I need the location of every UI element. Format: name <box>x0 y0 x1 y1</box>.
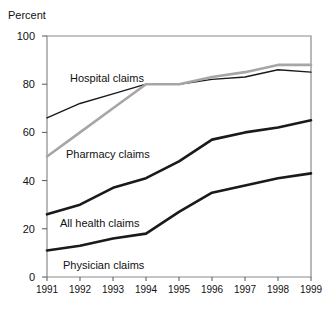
series-label-physician-claims: Physician claims <box>63 259 144 271</box>
series-label-pharmacy-claims: Pharmacy claims <box>66 148 150 160</box>
series-label-all-health-claims: All health claims <box>60 217 139 229</box>
percent-claims-line-chart: Percent 020406080100 1991199219931994199… <box>0 0 332 309</box>
series-line-physician-claims <box>47 173 311 250</box>
plot-area <box>0 0 332 309</box>
series-line-all-health-claims <box>47 120 311 214</box>
series-label-hospital-claims: Hospital claims <box>70 72 144 84</box>
